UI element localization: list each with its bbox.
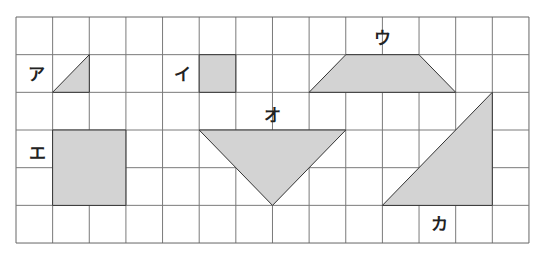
shape-e: [53, 130, 126, 205]
shape-ka: [382, 92, 492, 205]
shape-i: [199, 55, 236, 93]
label-e: エ: [29, 143, 46, 163]
shape-u: [309, 55, 456, 93]
shape-a: [53, 55, 90, 93]
label-i: イ: [174, 64, 191, 84]
label-a: ア: [28, 64, 45, 84]
label-o: オ: [264, 105, 281, 125]
grid-figure: アイウエオカ: [0, 0, 541, 258]
label-u: ウ: [374, 28, 391, 48]
label-ka: カ: [431, 214, 448, 234]
